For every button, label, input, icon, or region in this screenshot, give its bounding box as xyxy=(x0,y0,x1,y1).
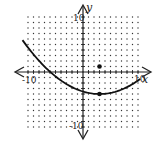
y-min-label: -10 xyxy=(69,121,84,131)
vertex-point xyxy=(97,92,102,97)
x-max-label: 10 xyxy=(134,74,146,84)
coordinate-plane: y x 10 -10 -10 10 xyxy=(0,0,160,142)
y-axis-label: y xyxy=(85,1,93,14)
focus-point xyxy=(97,64,102,69)
y-max-label: 10 xyxy=(73,13,85,23)
x-min-label: -10 xyxy=(22,75,37,85)
parabola-curve xyxy=(23,40,141,94)
